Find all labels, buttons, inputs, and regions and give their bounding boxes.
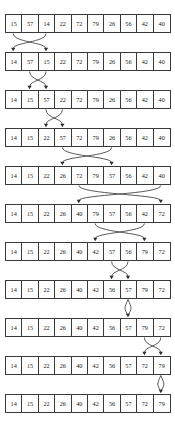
arrow-head <box>142 352 146 355</box>
swap-loop-path <box>158 376 164 392</box>
array-cell: 72 <box>72 15 88 32</box>
array-cell: 57 <box>121 357 137 374</box>
array-cell: 26 <box>55 243 71 260</box>
arrow-head <box>142 238 146 241</box>
array-cell: 79 <box>88 167 104 184</box>
array-cell: 26 <box>55 281 71 298</box>
array-cell: 40 <box>72 319 88 336</box>
array-cell: 14 <box>6 281 22 298</box>
swap-curve-path <box>112 262 128 277</box>
swap-curve-path <box>13 34 46 49</box>
arrow-head <box>110 276 114 279</box>
array-cell: 40 <box>72 395 88 412</box>
array-cell: 15 <box>22 167 38 184</box>
array-cell: 42 <box>88 319 104 336</box>
array-cell: 56 <box>104 319 120 336</box>
array-cell: 72 <box>154 281 170 298</box>
array-cell: 42 <box>88 357 104 374</box>
arrow-head <box>28 86 32 89</box>
arrow-head <box>44 124 48 127</box>
array-row: 14155722727926564240 <box>5 90 171 109</box>
array-cell: 56 <box>121 15 137 32</box>
array-cell: 14 <box>6 205 22 222</box>
array-cell: 14 <box>6 167 22 184</box>
array-row: 14152226404256577972 <box>5 280 171 299</box>
array-cell: 15 <box>22 243 38 260</box>
array-cell: 22 <box>55 91 71 108</box>
array-cell: 57 <box>22 15 38 32</box>
array-cell: 42 <box>137 91 153 108</box>
array-cell: 40 <box>72 205 88 222</box>
array-cell: 22 <box>55 53 71 70</box>
arrow-head <box>159 200 163 203</box>
array-cell: 56 <box>121 129 137 146</box>
array-row: 14152226404256577972 <box>5 318 171 337</box>
array-cell: 42 <box>88 243 104 260</box>
array-row: 14152226727957564240 <box>5 166 171 185</box>
swap-curve-path <box>95 224 144 239</box>
array-cell: 79 <box>88 129 104 146</box>
array-row: 14571522727926564240 <box>5 52 171 71</box>
array-cell: 72 <box>72 91 88 108</box>
swap-curve-path <box>144 338 160 353</box>
array-cell: 42 <box>137 53 153 70</box>
array-row: 14152226404256577279 <box>5 356 171 375</box>
array-cell: 22 <box>39 357 55 374</box>
swap-curve-path <box>95 224 144 239</box>
array-cell: 40 <box>154 167 170 184</box>
arrow-head <box>126 314 130 317</box>
array-cell: 14 <box>6 357 22 374</box>
arrow-head <box>159 352 163 355</box>
array-cell: 79 <box>88 15 104 32</box>
array-cell: 79 <box>88 91 104 108</box>
array-cell: 56 <box>121 205 137 222</box>
array-cell: 79 <box>88 205 104 222</box>
array-cell: 57 <box>22 53 38 70</box>
array-cell: 72 <box>154 243 170 260</box>
array-cell: 40 <box>72 357 88 374</box>
array-cell: 56 <box>121 243 137 260</box>
array-cell: 15 <box>39 53 55 70</box>
array-cell: 40 <box>154 15 170 32</box>
array-cell: 72 <box>137 395 153 412</box>
swap-loop-path <box>125 300 131 316</box>
array-cell: 40 <box>72 243 88 260</box>
array-cell: 72 <box>154 205 170 222</box>
array-cell: 56 <box>104 395 120 412</box>
swap-curve-path <box>112 262 128 277</box>
array-cell: 40 <box>72 281 88 298</box>
array-cell: 26 <box>104 53 120 70</box>
array-cell: 57 <box>39 91 55 108</box>
array-cell: 26 <box>55 205 71 222</box>
array-cell: 22 <box>55 15 71 32</box>
array-cell: 15 <box>22 319 38 336</box>
array-cell: 57 <box>104 243 120 260</box>
array-cell: 26 <box>104 91 120 108</box>
arrow-head <box>11 48 15 51</box>
swap-curve-path <box>62 148 111 163</box>
array-row: 14152257727926564240 <box>5 128 171 147</box>
swap-curve-path <box>79 186 161 201</box>
selection-sort-diagram: 1557142272792656424014571522727926564240… <box>0 0 175 447</box>
array-cell: 79 <box>88 53 104 70</box>
array-cell: 42 <box>137 167 153 184</box>
array-cell: 15 <box>6 15 22 32</box>
array-cell: 56 <box>121 53 137 70</box>
swap-curve-path <box>46 110 62 125</box>
array-cell: 42 <box>88 395 104 412</box>
arrow-head <box>44 48 48 51</box>
array-cell: 42 <box>88 281 104 298</box>
array-cell: 42 <box>137 205 153 222</box>
swap-curve-path <box>62 148 111 163</box>
array-cell: 14 <box>6 243 22 260</box>
arrow-head <box>110 162 114 165</box>
arrow-head <box>60 124 64 127</box>
array-cell: 79 <box>137 243 153 260</box>
arrow-head <box>126 276 130 279</box>
array-cell: 15 <box>22 129 38 146</box>
array-cell: 22 <box>39 319 55 336</box>
array-cell: 42 <box>137 129 153 146</box>
array-row: 14152226407957564272 <box>5 204 171 223</box>
array-cell: 22 <box>39 243 55 260</box>
swap-curve-path <box>13 34 46 49</box>
